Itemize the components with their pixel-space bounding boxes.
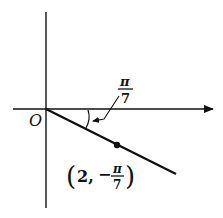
point-label-open-paren: (	[66, 161, 76, 191]
point-marker	[114, 142, 120, 148]
angle-label-numerator: π	[119, 74, 130, 89]
point-label-sign: −	[98, 165, 111, 184]
angle-arc	[86, 110, 89, 128]
point-label-denominator: 7	[113, 178, 121, 192]
point-label-r: 2,	[77, 167, 94, 186]
point-label-numerator: π	[112, 162, 122, 176]
origin-label: O	[29, 111, 42, 130]
angle-label-denominator: 7	[121, 91, 130, 106]
polar-diagram: O π 7 ( 2, − π 7 )	[0, 0, 223, 218]
point-label-close-paren: )	[125, 161, 135, 191]
